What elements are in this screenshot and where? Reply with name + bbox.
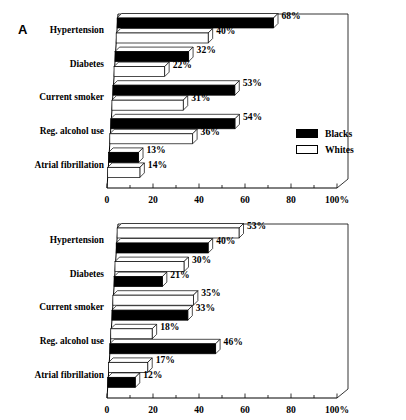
bar-value-label: 21% [170, 270, 189, 280]
bar-value-label: 14% [148, 160, 167, 170]
legend-label: Whites [325, 144, 354, 155]
x-tick-label: 100% [325, 194, 349, 205]
category-label: Atrial fibrillation [34, 370, 104, 380]
bar-value-label: 54% [243, 112, 262, 122]
chart-panel-b: B HypertensionDiabetesCurrent smokerReg.… [0, 210, 406, 420]
category-label: Diabetes [70, 59, 104, 69]
bar-value-label: 12% [143, 370, 162, 380]
x-tick-label: 80 [286, 404, 296, 415]
bar-value-label: 33% [196, 303, 215, 313]
category-label: Atrial fibrillation [34, 160, 104, 170]
x-tick-label: 80 [286, 194, 296, 205]
legend-swatch-white [296, 145, 318, 154]
legend-label: Blacks [325, 128, 352, 139]
bar-value-label: 40% [216, 26, 235, 36]
bar-value-label: 53% [247, 221, 266, 231]
bar-value-label: 17% [156, 355, 175, 365]
bar-value-label: 30% [192, 255, 211, 265]
bar-value-label: 13% [147, 145, 166, 155]
x-tick-label: 20 [148, 404, 158, 415]
bar-value-label: 18% [160, 322, 179, 332]
category-label: Hypertension [50, 235, 104, 245]
bar-value-label: 22% [173, 60, 192, 70]
legend-a: BlacksWhites [296, 126, 354, 158]
bar-value-label: 32% [197, 45, 216, 55]
x-tick-label: 20 [148, 194, 158, 205]
category-label: Reg. alcohol use [40, 126, 104, 136]
legend-swatch-black [296, 129, 318, 138]
bar-value-label: 35% [201, 288, 220, 298]
x-tick-label: 40 [194, 404, 204, 415]
x-tick-label: 100% [325, 404, 349, 415]
category-label: Reg. alcohol use [40, 336, 104, 346]
legend-entry: Blacks [296, 126, 354, 140]
bar-value-label: 40% [216, 236, 235, 246]
x-tick-label: 40 [194, 194, 204, 205]
category-label: Current smoker [39, 302, 104, 312]
bar-value-label: 46% [224, 337, 243, 347]
category-label: Hypertension [50, 25, 104, 35]
legend-entry: Whites [296, 142, 354, 156]
x-tick-label: 60 [240, 194, 250, 205]
x-tick-label: 0 [105, 194, 110, 205]
bar-value-label: 36% [201, 127, 220, 137]
category-label: Diabetes [70, 269, 104, 279]
x-tick-label: 0 [105, 404, 110, 415]
bar-value-label: 53% [243, 78, 262, 88]
chart-panel-a: A HypertensionDiabetesCurrent smokerReg.… [0, 0, 406, 210]
bar-value-label: 68% [282, 11, 301, 21]
x-tick-label: 60 [240, 404, 250, 415]
category-label: Current smoker [39, 92, 104, 102]
bar-value-label: 31% [191, 93, 210, 103]
